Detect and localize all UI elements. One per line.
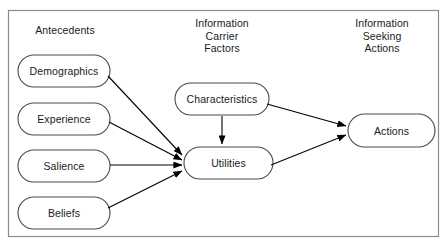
node-shape-demographics[interactable] bbox=[18, 55, 110, 87]
diagram-canvas: Antecedents Information Carrier Factors … bbox=[0, 0, 447, 250]
column-heading-information-seeking-actions: Information Seeking Actions bbox=[334, 17, 430, 55]
node-shape-salience[interactable] bbox=[18, 150, 110, 182]
node-shape-experience[interactable] bbox=[18, 103, 110, 135]
node-shape-utilities[interactable] bbox=[184, 147, 273, 179]
node-shape-beliefs[interactable] bbox=[18, 197, 110, 229]
node-shape-actions[interactable] bbox=[348, 114, 435, 147]
column-heading-antecedents: Antecedents bbox=[19, 24, 111, 37]
column-heading-information-carrier-factors: Information Carrier Factors bbox=[176, 17, 268, 55]
node-shape-characteristics[interactable] bbox=[175, 83, 269, 115]
